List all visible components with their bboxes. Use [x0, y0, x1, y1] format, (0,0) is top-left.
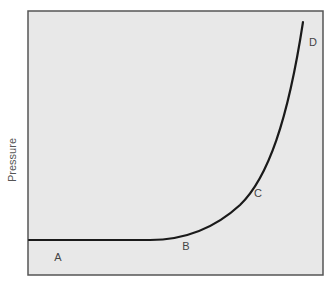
plot-area	[28, 11, 323, 275]
annotation-a: A	[54, 251, 61, 263]
annotation-d: D	[309, 36, 317, 48]
annotation-b: B	[182, 240, 189, 252]
y-axis-label: Pressure	[6, 138, 18, 182]
pressure-chart	[0, 0, 332, 286]
annotation-c: C	[254, 187, 262, 199]
